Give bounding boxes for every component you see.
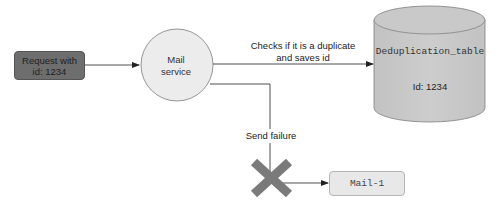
dedup-table-name: Deduplication_table <box>374 45 486 59</box>
mail-service-label-line2: service <box>161 66 191 78</box>
request-label-line1: Request with <box>22 55 77 66</box>
mail-service-label-line1: Mail <box>161 54 191 66</box>
diagram-canvas <box>0 0 500 216</box>
edge-label-send-failure: Send failure <box>240 129 302 143</box>
mail1-label: Mail-1 <box>350 178 384 189</box>
request-node: Request with id: 1234 <box>14 51 85 80</box>
edge-label-line2: and saves id <box>228 52 378 64</box>
failure-cross-icon <box>254 162 289 194</box>
request-label-line2: id: 1234 <box>22 66 77 77</box>
edge-label-duplicate-check: Checks if it is a duplicate and saves id <box>228 40 378 64</box>
edge-label-line1: Checks if it is a duplicate <box>228 40 378 52</box>
mail-service-label: Mail service <box>146 52 206 80</box>
mail1-node: Mail-1 <box>329 171 405 196</box>
dedup-table-node <box>374 6 485 122</box>
dedup-table-content: Id: 1234 <box>374 80 486 94</box>
